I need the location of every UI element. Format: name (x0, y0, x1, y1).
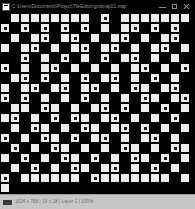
grid-cell[interactable] (80, 83, 90, 93)
grid-cell[interactable] (150, 133, 160, 143)
grid-cell[interactable] (150, 173, 160, 183)
grid-cell[interactable] (120, 183, 130, 193)
grid-cell[interactable] (180, 173, 190, 183)
grid-cell[interactable] (110, 23, 120, 33)
grid-cell[interactable] (150, 103, 160, 113)
grid-cell[interactable] (130, 83, 140, 93)
grid-cell[interactable] (40, 83, 50, 93)
grid-cell[interactable] (20, 143, 30, 153)
grid-cell[interactable] (60, 113, 70, 123)
grid-cell[interactable] (140, 83, 150, 93)
grid-cell[interactable] (90, 13, 100, 23)
grid-cell[interactable] (170, 183, 180, 193)
grid-cell[interactable] (50, 183, 60, 193)
grid-cell[interactable] (100, 43, 110, 53)
grid-cell[interactable] (10, 103, 20, 113)
grid-cell[interactable] (90, 53, 100, 63)
grid-cell[interactable] (20, 53, 30, 63)
grid-cell[interactable] (60, 63, 70, 73)
grid-cell[interactable] (70, 153, 80, 163)
grid-cell[interactable] (120, 123, 130, 133)
grid-cell[interactable] (60, 13, 70, 23)
grid-cell[interactable] (60, 173, 70, 183)
grid-cell[interactable] (40, 153, 50, 163)
grid-cell[interactable] (130, 183, 140, 193)
grid-cell[interactable] (60, 33, 70, 43)
grid-cell[interactable] (40, 23, 50, 33)
grid-cell[interactable] (10, 183, 20, 193)
grid-cell[interactable] (80, 163, 90, 173)
grid-cell[interactable] (50, 103, 60, 113)
grid-cell[interactable] (170, 33, 180, 43)
grid-cell[interactable] (80, 153, 90, 163)
grid-cell[interactable] (60, 43, 70, 53)
grid-cell[interactable] (150, 33, 160, 43)
grid-cell[interactable] (100, 63, 110, 73)
grid-cell[interactable] (150, 113, 160, 123)
grid-cell[interactable] (40, 93, 50, 103)
grid-cell[interactable] (150, 143, 160, 153)
grid-cell[interactable] (170, 63, 180, 73)
grid-cell[interactable] (70, 63, 80, 73)
grid-cell[interactable] (20, 163, 30, 173)
grid-cell[interactable] (170, 83, 180, 93)
grid-cell[interactable] (0, 143, 10, 153)
grid-cell[interactable] (20, 183, 30, 193)
grid-cell[interactable] (60, 133, 70, 143)
grid-cell[interactable] (50, 93, 60, 103)
grid-cell[interactable] (90, 123, 100, 133)
grid-cell[interactable] (80, 143, 90, 153)
grid-cell[interactable] (160, 13, 170, 23)
grid-cell[interactable] (100, 163, 110, 173)
grid-cell[interactable] (110, 63, 120, 73)
grid-cell[interactable] (10, 133, 20, 143)
grid-cell[interactable] (90, 73, 100, 83)
grid-cell[interactable] (160, 73, 170, 83)
grid-cell[interactable] (60, 163, 70, 173)
grid-cell[interactable] (140, 53, 150, 63)
grid-cell[interactable] (90, 23, 100, 33)
grid-cell[interactable] (110, 103, 120, 113)
grid-cell[interactable] (120, 33, 130, 43)
grid-cell[interactable] (50, 73, 60, 83)
grid-cell[interactable] (40, 173, 50, 183)
grid-cell[interactable] (70, 173, 80, 183)
grid-cell[interactable] (50, 153, 60, 163)
grid-cell[interactable] (170, 93, 180, 103)
grid-cell[interactable] (50, 83, 60, 93)
grid-cell[interactable] (0, 153, 10, 163)
grid-cell[interactable] (100, 93, 110, 103)
grid-cell[interactable] (70, 183, 80, 193)
grid-cell[interactable] (150, 63, 160, 73)
grid-cell[interactable] (130, 103, 140, 113)
grid-cell[interactable] (170, 23, 180, 33)
grid-cell[interactable] (150, 53, 160, 63)
grid-cell[interactable] (140, 33, 150, 43)
grid-cell[interactable] (130, 113, 140, 123)
grid-cell[interactable] (80, 183, 90, 193)
grid-cell[interactable] (130, 23, 140, 33)
grid-cell[interactable] (110, 93, 120, 103)
grid-cell[interactable] (10, 143, 20, 153)
grid-cell[interactable] (160, 183, 170, 193)
grid-cell[interactable] (90, 93, 100, 103)
grid-cell[interactable] (20, 113, 30, 123)
grid-cell[interactable] (130, 93, 140, 103)
grid-cell[interactable] (30, 53, 40, 63)
grid-cell[interactable] (80, 43, 90, 53)
title-bar[interactable]: C:\Users\Documents\Project\TileEditor\gr… (0, 0, 195, 13)
grid-cell[interactable] (180, 183, 190, 193)
grid-cell[interactable] (120, 23, 130, 33)
grid-cell[interactable] (100, 123, 110, 133)
grid-cell[interactable] (100, 13, 110, 23)
grid-cell[interactable] (10, 123, 20, 133)
grid-cell[interactable] (70, 43, 80, 53)
grid-cell[interactable] (120, 143, 130, 153)
grid-cell[interactable] (0, 43, 10, 53)
grid-cell[interactable] (130, 163, 140, 173)
grid-cell[interactable] (80, 93, 90, 103)
grid-cell[interactable] (10, 53, 20, 63)
grid-cell[interactable] (80, 23, 90, 33)
grid-cell[interactable] (0, 33, 10, 43)
grid-cell[interactable] (70, 133, 80, 143)
